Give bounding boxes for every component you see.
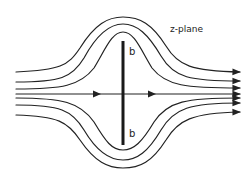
plate-label-top: b xyxy=(129,46,135,57)
center-arrow-left-icon xyxy=(93,91,101,98)
streamline-lower-middle xyxy=(16,103,240,160)
streamline-diagram: b b z-plane xyxy=(0,0,251,180)
streamline-lower-inner xyxy=(16,98,240,150)
center-arrow-right-icon xyxy=(148,91,156,98)
plane-title: z-plane xyxy=(170,24,203,34)
streamline-upper-outer xyxy=(16,17,240,72)
flat-plate xyxy=(122,41,125,145)
plate-label-bottom: b xyxy=(129,128,135,139)
